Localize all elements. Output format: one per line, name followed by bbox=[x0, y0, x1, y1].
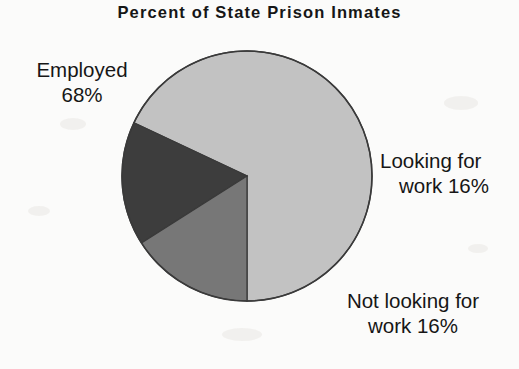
scan-speck bbox=[468, 244, 488, 253]
slice-label-employed-line1: Employed bbox=[12, 57, 152, 82]
chart-title: Percent of State Prison Inmates bbox=[0, 3, 519, 22]
slice-label-employed: Employed 68% bbox=[12, 57, 152, 107]
slice-label-employed-line2: 68% bbox=[12, 82, 152, 107]
scan-speck bbox=[444, 96, 478, 110]
pie-graphic bbox=[121, 50, 373, 302]
scan-speck bbox=[222, 328, 262, 341]
slice-label-looking-for-work: Looking for work 16% bbox=[380, 148, 516, 198]
pie-svg bbox=[121, 50, 373, 302]
pie-chart-figure: Percent of State Prison Inmates Employed… bbox=[0, 0, 519, 369]
slice-label-looking-line2: work 16% bbox=[380, 173, 516, 198]
slice-label-not-looking-for-work: Not looking for work 16% bbox=[318, 288, 508, 338]
slice-label-not-looking-line1: Not looking for bbox=[318, 288, 508, 313]
scan-speck bbox=[60, 118, 86, 130]
slice-label-looking-line1: Looking for bbox=[380, 148, 516, 173]
slice-label-not-looking-line2: work 16% bbox=[318, 313, 508, 338]
scan-speck bbox=[28, 206, 50, 216]
